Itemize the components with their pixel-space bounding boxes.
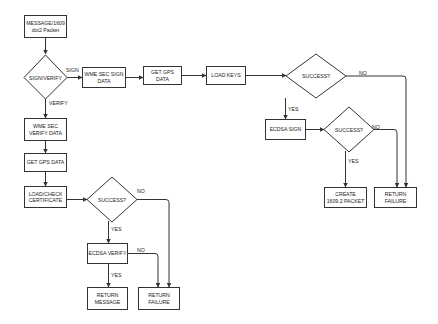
edge-label-keys-yes: YES — [288, 106, 298, 112]
node-load-check-certificate: LOAD/CHECK CERTIFICATE — [24, 186, 67, 208]
flowchart-canvas: MESSAGE/1609 dot2 Packet WME SEC SIGN DA… — [0, 0, 438, 324]
node-ecdsa-verify: ECDSA VERIFY — [87, 243, 128, 264]
arrow-verify-no — [128, 254, 158, 288]
edge-label-verify: VERIFY — [49, 100, 68, 106]
arrow-sign-no — [374, 130, 397, 188]
arrow-cert-no — [137, 200, 169, 288]
node-get-gps-data-sign: GET GPS DATA — [143, 66, 182, 85]
node-return-failure-sign: RETURN FAILURE — [374, 187, 417, 208]
node-load-keys: LOAD KEYS — [206, 66, 246, 85]
edge-label-cert-yes: YES — [111, 226, 121, 232]
edge-label-verify-yes: YES — [111, 272, 121, 278]
edge-label-cert-no: NO — [137, 188, 145, 194]
node-return-message: RETURN MESSAGE — [87, 287, 128, 310]
node-message-packet: MESSAGE/1609 dot2 Packet — [24, 15, 67, 38]
node-return-failure-verify: RETURN FAILURE — [138, 287, 180, 310]
decision-success-sign-label: SUCCESS? — [335, 127, 363, 133]
edge-label-sign-yes: YES — [348, 158, 358, 164]
edge-label-keys-no: NO — [359, 70, 367, 76]
decision-success-keys-label: SUCCESS? — [302, 73, 330, 79]
node-wme-sec-sign-data: WME SEC SIGN DATA — [82, 67, 126, 88]
node-get-gps-data-verify: GET GPS DATA — [24, 153, 67, 172]
edge-label-sign-no: NO — [372, 124, 380, 130]
node-wme-sec-verify-data: WME SEC VERIFY DATA — [24, 118, 67, 141]
edge-label-verify-no: NO — [137, 247, 145, 253]
node-ecdsa-sign: ECDSA SIGN — [265, 119, 306, 140]
decision-sign-verify-label: SIGN/VERIFY — [29, 75, 62, 81]
decision-success-cert-label: SUCCESS? — [98, 197, 126, 203]
edge-label-sign: SIGN — [66, 67, 79, 73]
node-create-packet: CREATE 1609.2 PACKET — [324, 187, 367, 208]
